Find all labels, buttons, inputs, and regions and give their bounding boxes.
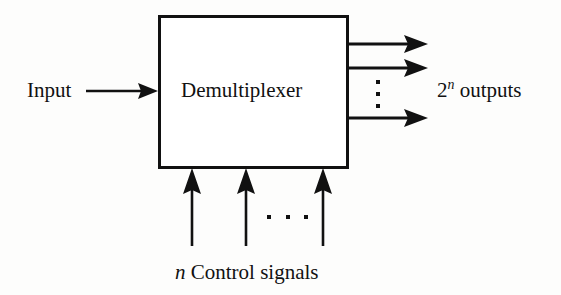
outputs-label-suffix: outputs (454, 78, 521, 102)
input-label: Input (27, 80, 71, 101)
control-signals-label-variable: n (175, 260, 186, 284)
demultiplexer-diagram: Input Demultiplexer 2n outputs n Control… (0, 0, 561, 295)
output-arrow-1 (348, 35, 428, 53)
control-arrow-2 (237, 168, 255, 246)
outputs-label-base: 2 (437, 78, 448, 102)
output-arrow-2 (348, 59, 428, 77)
demultiplexer-block-label: Demultiplexer (181, 80, 302, 101)
diagram-canvas (0, 0, 561, 295)
control-ellipsis-icon (267, 215, 308, 219)
outputs-label: 2n outputs (437, 80, 522, 101)
control-arrow-3 (314, 168, 332, 246)
control-signals-label-suffix: Control signals (186, 260, 319, 284)
control-signals-label: n Control signals (175, 262, 319, 283)
control-arrow-1 (183, 168, 201, 246)
output-ellipsis-icon (376, 80, 380, 108)
output-arrow-3 (348, 109, 428, 127)
input-arrow (86, 83, 158, 99)
